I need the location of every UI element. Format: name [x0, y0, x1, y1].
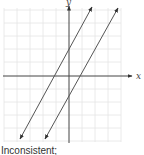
- y-axis-label: y: [65, 0, 72, 7]
- caption: Inconsistent;: [1, 145, 57, 155]
- grid: [4, 8, 121, 142]
- coordinate-graph: x y: [0, 0, 144, 155]
- x-axis-label: x: [136, 71, 141, 81]
